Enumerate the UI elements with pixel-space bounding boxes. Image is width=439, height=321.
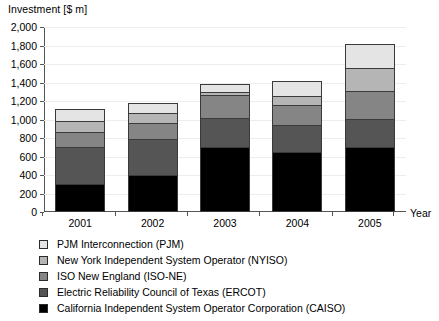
investment-stacked-bar-chart: Investment [$ m] 02004006008001,0001,200… xyxy=(0,0,439,321)
bar-segment-iso-ne[interactable] xyxy=(55,132,105,149)
legend-item-label: California Independent System Operator C… xyxy=(57,303,345,314)
plot-area: 02004006008001,0001,2001,4001,6001,8002,… xyxy=(44,27,406,212)
y-axis-tick-label: 1,000 xyxy=(11,114,37,125)
bar-stack xyxy=(55,109,105,212)
bar-segment-caiso[interactable] xyxy=(55,184,105,212)
bar-group[interactable] xyxy=(200,27,250,212)
bar-stack xyxy=(200,84,250,212)
bar-group[interactable] xyxy=(128,27,178,212)
bar-segment-iso-ne[interactable] xyxy=(272,105,322,126)
legend-item-label: New York Independent System Operator (NY… xyxy=(57,255,288,266)
legend-swatch-icon xyxy=(39,288,48,297)
legend-item-label: PJM Interconnection (PJM) xyxy=(57,239,184,250)
bar-segment-iso-ne[interactable] xyxy=(345,91,395,120)
bar-stack xyxy=(128,103,178,212)
bar-segment-caiso[interactable] xyxy=(345,147,395,212)
x-axis-tick-label: 2004 xyxy=(286,218,309,229)
bars-layer xyxy=(44,27,406,212)
bar-segment-caiso[interactable] xyxy=(128,175,178,212)
bar-segment-ercot[interactable] xyxy=(128,139,178,176)
y-axis-tick-label: 800 xyxy=(19,133,37,144)
x-axis-tick-label: 2003 xyxy=(213,218,236,229)
legend-swatch-icon xyxy=(39,240,48,249)
bar-segment-iso-ne[interactable] xyxy=(128,123,178,140)
y-axis-tick-label: 1,400 xyxy=(11,77,37,88)
y-axis-tick-label: 1,800 xyxy=(11,40,37,51)
bar-segment-pjm[interactable] xyxy=(272,81,322,97)
legend-swatch-icon xyxy=(39,272,48,281)
legend-item[interactable]: California Independent System Operator C… xyxy=(39,300,434,316)
x-axis-tick-label: 2002 xyxy=(141,218,164,229)
legend-swatch-icon xyxy=(39,256,48,265)
chart-legend: PJM Interconnection (PJM)New York Indepe… xyxy=(39,236,434,316)
bar-segment-ercot[interactable] xyxy=(272,125,322,153)
y-axis-tick-label: 1,200 xyxy=(11,96,37,107)
x-axis-tick xyxy=(259,212,260,216)
x-axis-tick xyxy=(393,212,394,216)
y-axis-tick-label: 1,600 xyxy=(11,59,37,70)
x-axis-tick xyxy=(332,212,333,216)
y-axis-tick-label: 0 xyxy=(31,207,37,218)
bar-segment-nyiso[interactable] xyxy=(345,68,395,92)
bar-segment-caiso[interactable] xyxy=(272,152,322,212)
bar-stack xyxy=(272,81,322,212)
bar-segment-caiso[interactable] xyxy=(200,147,250,212)
y-axis-tick-label: 400 xyxy=(19,170,37,181)
legend-swatch-icon xyxy=(39,304,48,313)
legend-item[interactable]: New York Independent System Operator (NY… xyxy=(39,252,434,268)
bar-stack xyxy=(345,44,395,212)
legend-item-label: ISO New England (ISO-NE) xyxy=(57,271,187,282)
bar-segment-ercot[interactable] xyxy=(345,119,395,149)
bar-group[interactable] xyxy=(272,27,322,212)
legend-item-label: Electric Reliability Council of Texas (E… xyxy=(57,287,266,298)
x-axis-tick-label: 2001 xyxy=(69,218,92,229)
x-axis-tick-label: 2005 xyxy=(358,218,381,229)
bar-segment-iso-ne[interactable] xyxy=(200,95,250,119)
bar-group[interactable] xyxy=(55,27,105,212)
legend-item[interactable]: ISO New England (ISO-NE) xyxy=(39,268,434,284)
legend-item[interactable]: PJM Interconnection (PJM) xyxy=(39,236,434,252)
x-axis-tick xyxy=(187,212,188,216)
y-axis-tick-label: 2,000 xyxy=(11,22,37,33)
x-axis-title: Year xyxy=(410,207,431,219)
x-axis-tick xyxy=(42,212,43,216)
y-axis-tick-label: 200 xyxy=(19,188,37,199)
x-axis-tick xyxy=(115,212,116,216)
bar-group[interactable] xyxy=(345,27,395,212)
bar-segment-ercot[interactable] xyxy=(55,147,105,185)
legend-item[interactable]: Electric Reliability Council of Texas (E… xyxy=(39,284,434,300)
bar-segment-pjm[interactable] xyxy=(345,44,395,69)
y-axis-tick-label: 600 xyxy=(19,151,37,162)
y-axis-title: Investment [$ m] xyxy=(8,3,87,15)
bar-segment-ercot[interactable] xyxy=(200,118,250,149)
